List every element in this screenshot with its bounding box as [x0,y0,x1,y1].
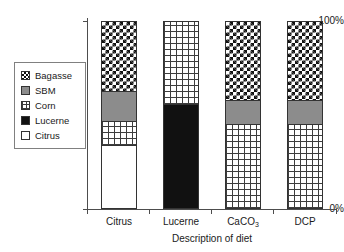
legend-item-sbm: SBM [21,83,80,98]
citrus-swatch-icon [21,131,30,140]
x-label-caco3-subscript: 3 [255,221,259,228]
corn-swatch-icon [21,101,30,110]
x-label-caco3: CaCO3 [208,216,278,229]
x-tick-3 [273,209,274,214]
segment-caco3-corn [226,124,260,208]
segment-dcp-corn [288,124,322,208]
bar-citrus [101,21,137,209]
sbm-swatch-icon [21,86,30,95]
bagasse-swatch-icon [21,71,30,80]
segment-citrus-sbm [102,91,136,121]
x-tick-2 [211,209,212,214]
x-tick-1 [149,209,150,214]
x-label-citrus: Citrus [84,216,154,228]
segment-caco3-sbm [226,100,260,124]
x-label-dcp: DCP [270,216,340,228]
lucerne-swatch-icon [21,116,30,125]
legend-item-corn: Corn [21,98,80,113]
legend-label-lucerne: Lucerne [35,115,69,126]
bar-dcp [287,21,323,209]
x-tick-0 [87,209,88,214]
legend-label-sbm: SBM [35,85,56,96]
legend-label-citrus: Citrus [35,130,60,141]
segment-lucerne-lucerne [164,104,198,208]
x-label-caco3-main: CaCO [227,216,255,227]
bar-lucerne [163,21,199,209]
segment-citrus-citrus [102,145,136,208]
segment-citrus-corn [102,121,136,145]
x-tick-4 [336,209,337,214]
x-axis-line [87,209,337,210]
chart-legend: Bagasse SBM Corn Lucerne Citrus [14,62,86,149]
segment-lucerne-corn [164,22,198,104]
segment-caco3-bagasse [226,22,260,100]
bar-caco3 [225,21,261,209]
legend-item-citrus: Citrus [21,128,80,143]
legend-label-bagasse: Bagasse [35,70,72,81]
legend-item-bagasse: Bagasse [21,68,80,83]
stacked-bar-chart: 100% 0% Cit [0,0,344,252]
plot-area [88,21,336,209]
legend-label-corn: Corn [35,100,56,111]
legend-item-lucerne: Lucerne [21,113,80,128]
x-axis-title: Description of diet [88,233,336,245]
x-label-lucerne: Lucerne [146,216,216,228]
segment-citrus-bagasse [102,22,136,91]
segment-dcp-bagasse [288,22,322,100]
segment-dcp-sbm [288,100,322,124]
